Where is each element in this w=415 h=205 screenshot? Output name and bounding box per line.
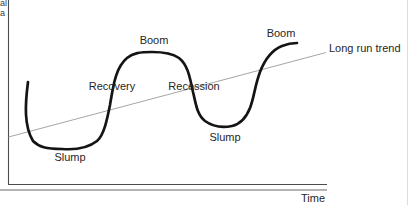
label-long-run-trend: Long run trend xyxy=(329,43,401,54)
label-recession: Recession xyxy=(168,81,219,92)
label-boom-second: Boom xyxy=(267,28,296,39)
business-cycle-diagram: al a Boom Boom Recovery Recession Slump … xyxy=(0,0,415,205)
y-axis-label-fragment-line1: al xyxy=(0,0,7,8)
x-axis-label-time: Time xyxy=(301,193,325,204)
diagram-canvas xyxy=(0,0,415,205)
long-run-trend-line xyxy=(9,53,327,138)
label-slump-first: Slump xyxy=(54,152,85,163)
label-recovery: Recovery xyxy=(89,81,135,92)
label-slump-second: Slump xyxy=(209,132,240,143)
label-boom-first: Boom xyxy=(140,35,169,46)
y-axis-label-fragment-line2: a xyxy=(0,9,5,18)
